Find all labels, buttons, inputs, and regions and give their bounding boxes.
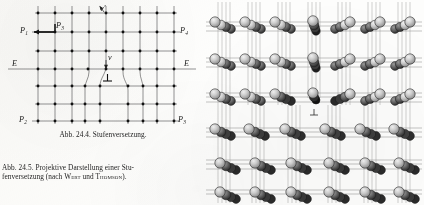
label-burgers-p3: P3 <box>55 21 64 31</box>
caption-24-5-mid: und <box>81 172 96 181</box>
caption-24-4-text: Abb. 24.4. Stufenversetzung. <box>59 130 146 139</box>
label-slip-plane-right: E <box>183 59 189 68</box>
caption-24-5-post: ). <box>122 172 126 181</box>
sphere-row <box>210 16 415 35</box>
figure-edge-dislocation: P1 P2 P3 P4 P3 E E v′ v <box>0 0 206 150</box>
label-p1: P1 <box>19 26 28 36</box>
dislocation-symbol-icon <box>103 74 112 81</box>
label-slip-plane-left: E <box>11 59 17 68</box>
figure-projective-dislocation <box>204 0 424 205</box>
sphere-row <box>210 88 415 106</box>
label-vector-v-prime: v′ <box>100 4 106 13</box>
author-name-wert: Wert <box>64 172 80 181</box>
label-vector-v: v <box>108 53 112 62</box>
sphere-row <box>215 187 420 204</box>
caption-24-5-line2-pre: fenversetzung (nach <box>2 172 64 181</box>
author-name-thomson: Thomson <box>96 172 123 181</box>
label-p4: P4 <box>179 26 188 36</box>
dislocation-symbol-icon <box>310 109 318 115</box>
label-p3: P3 <box>177 115 186 125</box>
lattice-rods-vertical-lower <box>218 105 410 203</box>
sphere-row <box>210 53 415 72</box>
figure-caption-24-5: Abb. 24.5. Projektive Darstellung einer … <box>2 163 162 181</box>
label-p2: P2 <box>18 115 27 125</box>
figure-caption-24-4: Abb. 24.4. Stufenversetzung. <box>0 130 206 139</box>
burgers-vector-arrow <box>34 30 54 35</box>
atoms-lower <box>37 85 176 123</box>
caption-24-5-line1: Abb. 24.5. Projektive Darstellung einer … <box>2 163 134 172</box>
figure-page: P1 P2 P3 P4 P3 E E v′ v <box>0 0 424 205</box>
sphere-row <box>215 158 420 175</box>
